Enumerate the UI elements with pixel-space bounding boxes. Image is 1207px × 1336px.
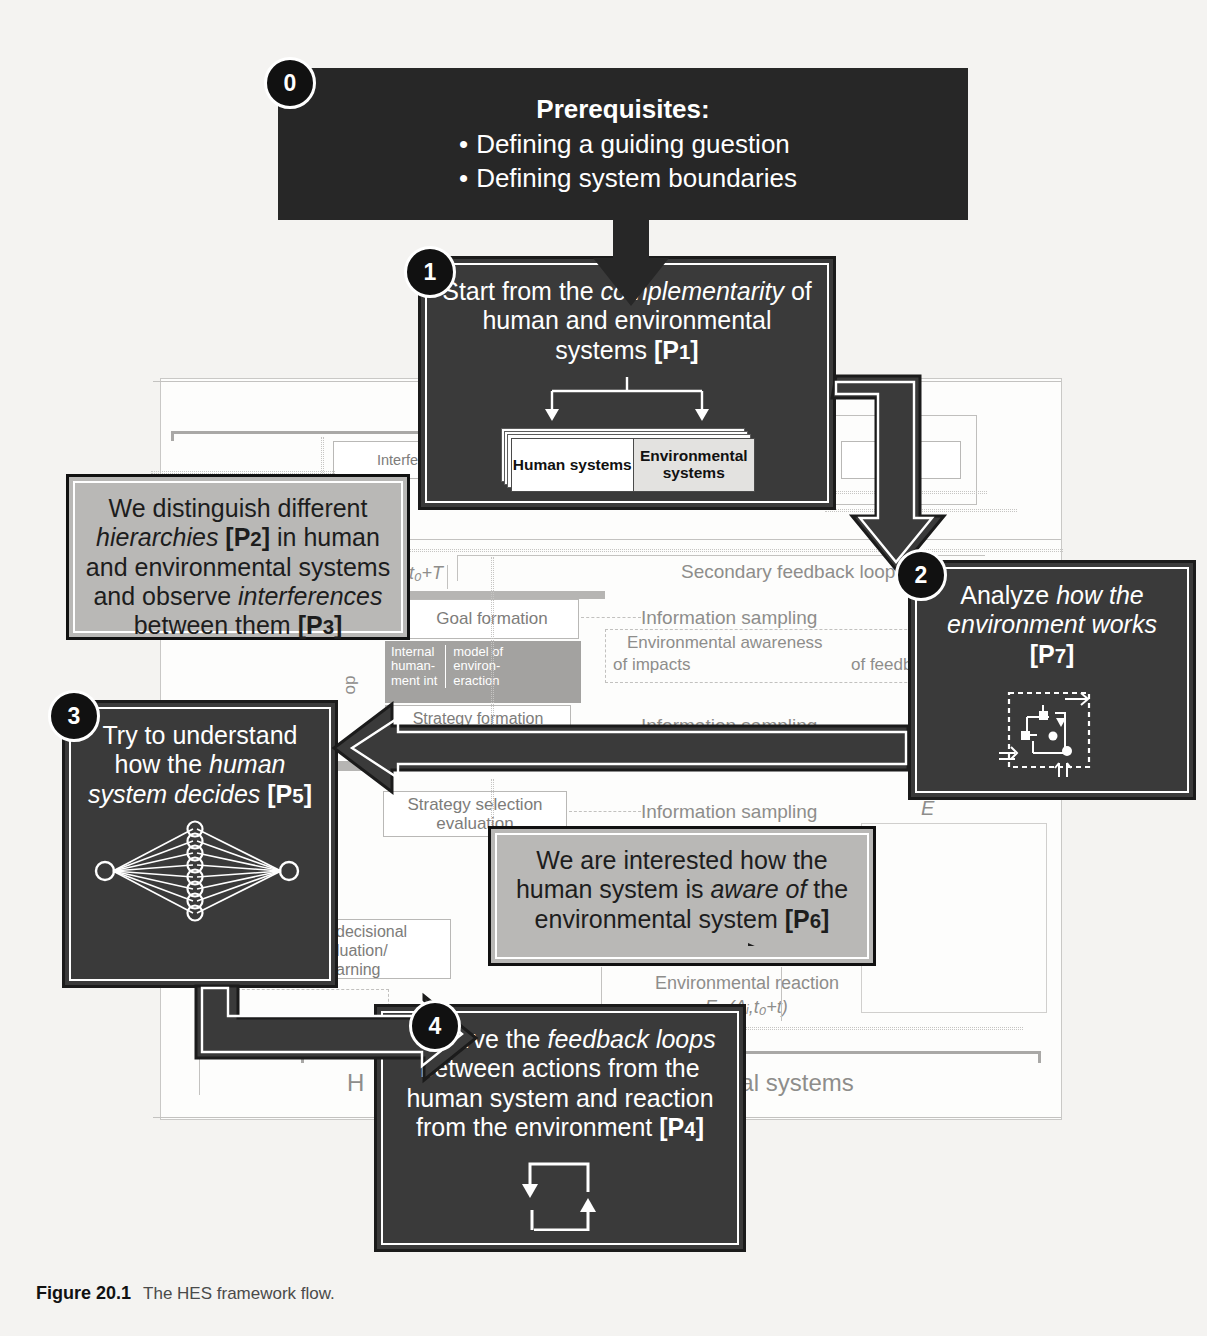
bg-label-bottom-H: H	[347, 1069, 364, 1097]
step-badge-2: 2	[895, 549, 947, 601]
prerequisites-box: Prerequisites: Defining a guiding guesti…	[278, 68, 968, 220]
dashed-arrow-icon	[582, 940, 782, 946]
card-environmental-systems: Environmental systems	[633, 439, 755, 491]
feedback-loop-icon	[500, 1152, 620, 1231]
bg-label-information-sampling-1: Information sampling	[641, 607, 817, 629]
bg-label-E: E	[921, 797, 934, 820]
prerequisite-item: Defining a guiding guestion	[459, 128, 797, 161]
bg-box-strategy-formation: Strategy formation S=(s₁, ..., sⱼ, ..., …	[385, 705, 571, 749]
bg-box-internal-model: Internalhuman-ment int model ofenviron-e…	[385, 641, 581, 703]
bg-label-environmental-reaction: Environmental reaction	[655, 973, 839, 994]
step-box-1: Start from the complementarity of human …	[418, 256, 836, 510]
step-badge-1: 1	[404, 246, 456, 298]
card-human-systems: Human systems	[512, 439, 633, 491]
bg-label-t0plusT: t₀+T	[409, 563, 443, 584]
step-box-3: Try to understand how the human system d…	[62, 700, 338, 988]
step-box-2: Analyze how the environment works [P7]	[908, 560, 1196, 800]
step-3-text: Try to understand how the human system d…	[81, 721, 319, 809]
branch-arrows-icon	[512, 377, 742, 428]
figure-root: H Interferen ences t₀+T Secondary feedba…	[0, 0, 1207, 1336]
prerequisite-item: Defining system boundaries	[459, 162, 797, 195]
bg-label-information-sampling-2: Information sampling	[641, 715, 817, 737]
annotation-hierarchies-text: We distinguish different hierarchies [P2…	[85, 494, 391, 640]
step-1-text: Start from the complementarity of human …	[437, 277, 817, 365]
figure-caption-text: The HES framework flow.	[143, 1284, 335, 1303]
annotation-hierarchies: We distinguish different hierarchies [P2…	[66, 474, 410, 640]
bg-label-env-awareness-2: Environmental awareness	[613, 741, 809, 761]
step-2-text: Analyze how the environment works [P7]	[927, 581, 1177, 669]
prerequisites-title: Prerequisites:	[536, 93, 709, 126]
bg-label-secondary-feedback-loop: Secondary feedback loop	[681, 561, 895, 583]
bg-label-op: op	[340, 676, 360, 695]
bg-label-information-sampling-3: Information sampling	[641, 801, 817, 823]
environment-system-icon	[997, 683, 1107, 779]
bg-box-decisional-evaluation: decisionalluation/arning	[331, 919, 451, 979]
step-badge-0: 0	[264, 57, 316, 109]
annotation-awareness: We are interested how the human system i…	[488, 826, 876, 966]
prerequisites-list: Defining a guiding guestion Defining sys…	[449, 128, 797, 195]
step-badge-4: 4	[409, 1000, 461, 1052]
system-cards: Human systems Environmental systems	[501, 428, 753, 489]
neural-network-icon	[85, 815, 315, 927]
system-cards-front: Human systems Environmental systems	[511, 438, 755, 492]
annotation-awareness-text: We are interested how the human system i…	[507, 846, 857, 934]
figure-caption: Figure 20.1The HES framework flow.	[36, 1283, 335, 1304]
figure-label: Figure 20.1	[36, 1283, 131, 1303]
step-badge-3: 3	[48, 690, 100, 742]
